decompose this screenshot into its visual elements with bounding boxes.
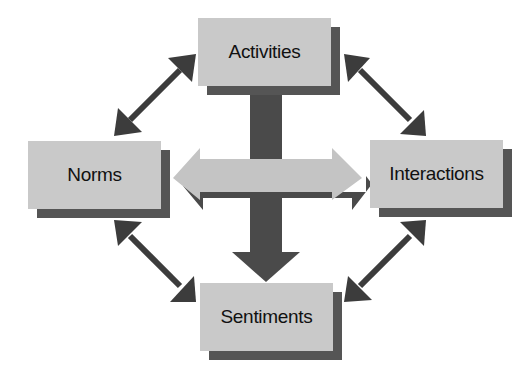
node-interactions: Interactions	[370, 140, 503, 208]
node-label: Interactions	[389, 163, 484, 185]
diagonal-arrow-bottom-left	[114, 220, 196, 302]
diagonal-arrow-bottom-right	[344, 220, 426, 302]
node-label: Activities	[229, 41, 301, 63]
diagonal-arrow-top-left	[114, 54, 196, 136]
node-activities: Activities	[198, 18, 331, 86]
node-label: Sentiments	[220, 306, 312, 328]
node-label: Norms	[67, 164, 121, 186]
node-norms: Norms	[28, 141, 161, 209]
node-sentiments: Sentiments	[200, 283, 333, 351]
diagonal-arrow-top-right	[344, 54, 426, 136]
